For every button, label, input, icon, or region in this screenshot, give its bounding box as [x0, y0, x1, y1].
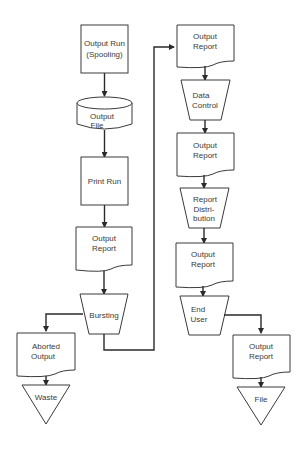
node-label: Output [92, 234, 117, 243]
offline-storage-shape [22, 385, 70, 424]
node-data-control: Data Control [181, 80, 230, 120]
node-aborted-output: Aborted Output [17, 333, 75, 377]
node-output-report-2: Output Report [177, 25, 234, 68]
flowchart-canvas: Output Run (Spooling) Output File Print … [0, 0, 305, 452]
node-label: Report [249, 352, 274, 361]
node-label: Report [193, 42, 218, 51]
connector-arrow [224, 315, 261, 333]
node-label: File [255, 395, 268, 404]
node-label: (Spooling) [86, 50, 123, 59]
node-output-run: Output Run (Spooling) [81, 25, 128, 73]
node-label: Report [193, 195, 218, 204]
connector-arrow [46, 314, 83, 331]
node-label: Print Run [88, 177, 121, 186]
node-label: Bursting [89, 311, 118, 320]
node-label: Report [193, 151, 218, 160]
node-label: User [191, 315, 208, 324]
node-print-run: Print Run [81, 157, 128, 205]
node-label: Waste [35, 393, 58, 402]
manual-operation-shape [181, 80, 230, 120]
node-label: Aborted [32, 342, 60, 351]
node-label: Control [192, 101, 218, 110]
node-output-report-3: Output Report [177, 133, 234, 177]
node-label: End [191, 305, 205, 314]
node-output-report-4: Output Report [176, 243, 233, 288]
node-label: bution [193, 214, 215, 223]
disk-storage-top [77, 97, 132, 109]
node-label: Output Run [84, 39, 125, 48]
node-end-user: End User [180, 296, 229, 335]
node-label: Output [193, 141, 218, 150]
node-label: Output [249, 342, 274, 351]
node-report-distribution: Report Distri- bution [180, 188, 229, 228]
offline-storage-shape [237, 387, 285, 425]
node-label: Report [92, 244, 117, 253]
node-label: File [91, 121, 104, 130]
node-label: Output [90, 112, 115, 121]
process-box [81, 25, 128, 73]
node-output-file: Output File [77, 97, 132, 130]
node-label: Distri- [194, 205, 215, 214]
node-label: Output [193, 32, 218, 41]
node-output-report-5: Output Report [233, 335, 290, 379]
node-label: Data [193, 91, 210, 100]
node-label: Output [191, 250, 216, 259]
node-output-report-1: Output Report [76, 227, 132, 271]
node-label: Report [191, 260, 216, 269]
node-label: Output [31, 352, 56, 361]
node-file: File [237, 387, 285, 425]
node-bursting: Bursting [80, 294, 128, 334]
node-waste: Waste [22, 385, 70, 424]
